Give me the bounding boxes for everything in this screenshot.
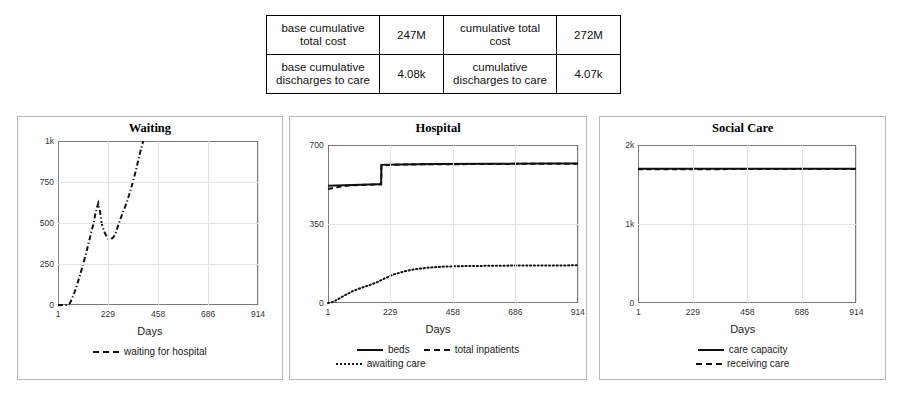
x-axis-tick-label: 1 xyxy=(56,309,61,319)
panel-waiting: Waiting 122945868691402505007501k Days w… xyxy=(17,116,283,380)
y-axis-tick-label: 700 xyxy=(310,140,328,150)
line-style-dashed-icon xyxy=(424,349,450,351)
panel-title-hospital: Hospital xyxy=(290,121,587,136)
y-axis-tick-label: 0 xyxy=(630,298,639,308)
base-cumulative-discharges-label: base cumulative discharges to care xyxy=(267,55,380,94)
cumulative-discharges-label: cumulative discharges to care xyxy=(444,55,557,94)
legend-row: receiving care xyxy=(600,357,885,371)
x-axis-tick-label: 914 xyxy=(571,307,585,317)
legend-label: receiving care xyxy=(727,357,789,371)
axis-title-hospital: Days xyxy=(290,323,587,335)
x-axis-tick-label: 686 xyxy=(795,307,809,317)
line-style-solid-icon xyxy=(698,349,724,351)
cumulative-total-cost-value: 272M xyxy=(557,16,621,55)
x-axis-tick-label: 1 xyxy=(636,307,641,317)
legend-label: beds xyxy=(388,343,410,357)
base-cumulative-total-cost-label: base cumulative total cost xyxy=(267,16,380,55)
x-axis-tick-label: 914 xyxy=(849,307,863,317)
legend-row: waiting for hospital xyxy=(18,345,282,359)
gridline-vertical xyxy=(578,145,579,303)
x-axis-tick-label: 686 xyxy=(201,309,215,319)
line-style-solid-icon xyxy=(357,349,383,351)
x-axis-tick-label: 229 xyxy=(383,307,397,317)
x-axis-tick-label: 458 xyxy=(151,309,165,319)
gridline-vertical xyxy=(258,141,259,305)
y-axis-tick-label: 1k xyxy=(45,136,58,146)
legend-item-beds: beds xyxy=(357,343,410,357)
legend-row: awaiting care xyxy=(290,357,587,371)
gridline-horizontal xyxy=(58,264,258,265)
line-style-dashed-icon xyxy=(696,363,722,365)
cumulative-discharges-value: 4.07k xyxy=(557,55,621,94)
legend-social-care: care capacity receiving care xyxy=(600,343,885,371)
axis-title-waiting: Days xyxy=(18,325,282,337)
line-style-dashdot-icon xyxy=(93,351,119,353)
x-axis-tick-label: 229 xyxy=(686,307,700,317)
y-axis-tick-label: 0 xyxy=(319,298,328,308)
legend-label: care capacity xyxy=(729,343,788,357)
summary-table: base cumulative total cost 247M cumulati… xyxy=(266,15,621,94)
gridline-horizontal xyxy=(58,182,258,183)
legend-label: awaiting care xyxy=(367,357,426,371)
legend-item-waiting-for-hospital: waiting for hospital xyxy=(93,345,207,359)
y-axis-tick-label: 750 xyxy=(40,177,58,187)
x-axis-tick-label: 458 xyxy=(446,307,460,317)
gridline-horizontal xyxy=(638,224,856,225)
gridline-vertical xyxy=(856,145,857,303)
y-axis-tick-label: 1k xyxy=(625,219,638,229)
panel-title-social-care: Social Care xyxy=(600,121,885,136)
legend-hospital: beds total inpatients awaiting care xyxy=(290,343,587,371)
x-axis-tick-label: 229 xyxy=(101,309,115,319)
x-axis-tick-label: 1 xyxy=(325,307,330,317)
y-axis-tick-label: 0 xyxy=(49,300,58,310)
summary-table-body: base cumulative total cost 247M cumulati… xyxy=(267,16,621,94)
legend-waiting: waiting for hospital xyxy=(18,345,282,359)
axis-title-social-care: Days xyxy=(600,323,885,335)
line-style-dotted-icon xyxy=(336,363,362,365)
y-axis-tick-label: 350 xyxy=(310,219,328,229)
x-axis-tick-label: 686 xyxy=(508,307,522,317)
legend-label: total inpatients xyxy=(455,343,520,357)
panel-hospital: Hospital 12294586869140350700 Days beds … xyxy=(289,116,588,380)
legend-row: care capacity xyxy=(600,343,885,357)
legend-item-receiving-care: receiving care xyxy=(696,357,789,371)
base-cumulative-discharges-value: 4.08k xyxy=(380,55,444,94)
legend-row: beds total inpatients xyxy=(290,343,587,357)
x-axis-tick-label: 914 xyxy=(251,309,265,319)
table-row: base cumulative discharges to care 4.08k… xyxy=(267,55,621,94)
plot-area-hospital: 12294586869140350700 xyxy=(328,145,578,303)
plot-area-social-care: 122945868691401k2k xyxy=(638,145,856,303)
x-axis-tick-label: 458 xyxy=(740,307,754,317)
legend-item-care-capacity: care capacity xyxy=(698,343,788,357)
legend-label: waiting for hospital xyxy=(124,345,207,359)
gridline-horizontal xyxy=(328,224,578,225)
plot-area-waiting: 122945868691402505007501k xyxy=(58,141,258,305)
charts-strip: Waiting 122945868691402505007501k Days w… xyxy=(17,116,886,380)
table-row: base cumulative total cost 247M cumulati… xyxy=(267,16,621,55)
y-axis-tick-label: 500 xyxy=(40,218,58,228)
legend-item-awaiting-care: awaiting care xyxy=(336,357,426,371)
y-axis-tick-label: 2k xyxy=(625,140,638,150)
cumulative-total-cost-label: cumulative total cost xyxy=(444,16,557,55)
y-axis-tick-label: 250 xyxy=(40,259,58,269)
legend-item-total-inpatients: total inpatients xyxy=(424,343,520,357)
gridline-horizontal xyxy=(58,223,258,224)
panel-social-care: Social Care 122945868691401k2k Days care… xyxy=(599,116,886,380)
panel-title-waiting: Waiting xyxy=(18,121,282,136)
base-cumulative-total-cost-value: 247M xyxy=(380,16,444,55)
